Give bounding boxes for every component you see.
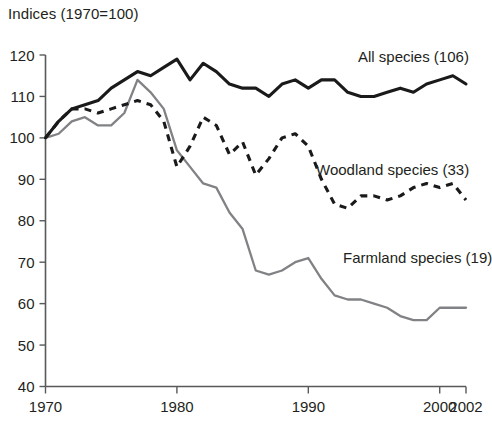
y-axis-tick-label: 90 [18, 171, 35, 188]
y-axis-tick-label: 120 [9, 47, 34, 64]
x-axis-tick-labels: 19701980199020002002 [29, 398, 483, 415]
y-axis-tick-label: 80 [18, 212, 35, 229]
y-axis-tick-label: 110 [11, 88, 35, 105]
y-axis-tick-label: 40 [18, 378, 35, 395]
bird-population-indices-chart: Indices (1970=100) 405060708090100110120… [0, 0, 492, 421]
chart-plot-area: 405060708090100110120 197019801990200020… [0, 0, 492, 421]
y-axis-tick-label: 100 [9, 129, 34, 146]
x-axis-tick-label: 1970 [29, 398, 62, 415]
y-axis-tick-label: 50 [18, 337, 35, 354]
series-label-all-species: All species (106) [358, 48, 469, 65]
y-axis-tick-labels: 405060708090100110120 [9, 47, 34, 396]
y-axis-ticks [40, 55, 46, 387]
x-axis-tick-label: 1980 [160, 398, 193, 415]
series-line-woodland-species [46, 101, 467, 209]
series-label-farmland-species: Farmland species (19) [343, 249, 492, 266]
x-axis-ticks [46, 387, 467, 394]
y-axis-tick-label: 70 [18, 254, 35, 271]
x-axis-tick-label: 2002 [449, 398, 482, 415]
x-axis-tick-label: 1990 [292, 398, 325, 415]
series-label-woodland-species: Woodland species (33) [316, 161, 469, 178]
series-line-farmland-species [46, 80, 467, 320]
y-axis-tick-label: 60 [18, 295, 35, 312]
